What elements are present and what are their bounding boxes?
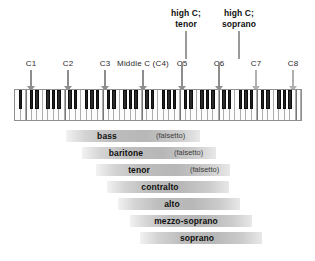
- octave-separator: [65, 90, 66, 120]
- black-key[interactable]: [283, 90, 286, 109]
- black-key[interactable]: [123, 90, 126, 109]
- black-key[interactable]: [162, 90, 165, 109]
- arrow-icon-middle-c-c4-: [139, 70, 148, 91]
- black-key[interactable]: [244, 90, 247, 109]
- black-key[interactable]: [266, 90, 269, 109]
- arrow-shaft: [255, 70, 257, 86]
- black-key[interactable]: [57, 90, 60, 109]
- arrow-icon-c1: [27, 70, 36, 91]
- callout-line-1: high C;: [171, 8, 201, 18]
- diagram-canvas: high C;tenorhigh C;soprano C1C2C3Middle …: [0, 0, 315, 261]
- black-key[interactable]: [222, 90, 225, 109]
- range-label-alto: alto: [122, 198, 222, 210]
- black-key[interactable]: [68, 90, 71, 109]
- black-key[interactable]: [30, 90, 33, 109]
- black-key[interactable]: [145, 90, 148, 109]
- black-key[interactable]: [277, 90, 280, 109]
- callout-label-high-c-soprano: high C;soprano: [199, 8, 279, 30]
- black-key[interactable]: [107, 90, 110, 109]
- range-label-tenor: tenor: [89, 164, 189, 176]
- octave-separator: [180, 90, 181, 120]
- callout-line-2: soprano: [199, 19, 279, 30]
- black-key[interactable]: [46, 90, 49, 109]
- range-label-mezzo-soprano: mezzo-soprano: [136, 215, 236, 227]
- black-key[interactable]: [189, 90, 192, 109]
- black-key[interactable]: [200, 90, 203, 109]
- arrow-shaft: [181, 62, 183, 86]
- callout-line-1: high C;: [224, 8, 254, 18]
- octave-label-c3: C3: [97, 59, 113, 68]
- arrow-icon-c2: [64, 70, 73, 91]
- octave-separator: [219, 90, 220, 120]
- black-key[interactable]: [74, 90, 77, 109]
- arrow-shaft: [142, 70, 144, 86]
- arrow-shaft: [104, 70, 106, 86]
- black-key[interactable]: [206, 90, 209, 109]
- arrow-icon-c6: [215, 62, 224, 91]
- black-key[interactable]: [239, 90, 242, 109]
- arrow-shaft: [292, 70, 294, 86]
- piano-keyboard[interactable]: [14, 89, 302, 121]
- arrow-icon-c3: [101, 70, 110, 91]
- octave-label-c8: C8: [285, 59, 301, 68]
- arrow-shaft: [67, 70, 69, 86]
- callout-stem-high-c-soprano: [238, 31, 240, 59]
- black-key[interactable]: [167, 90, 170, 109]
- black-key[interactable]: [134, 90, 137, 109]
- range-label-soprano: soprano: [147, 232, 247, 244]
- black-key[interactable]: [211, 90, 214, 109]
- arrow-icon-c7: [252, 70, 261, 91]
- range-note-bass: (falsetto): [156, 130, 185, 142]
- black-key[interactable]: [151, 90, 154, 109]
- black-key[interactable]: [129, 90, 132, 109]
- octave-label-c2: C2: [60, 59, 76, 68]
- range-note-baritone: (falsetto): [174, 147, 203, 159]
- arrow-shaft: [218, 62, 220, 86]
- black-key[interactable]: [112, 90, 115, 109]
- black-key[interactable]: [35, 90, 38, 109]
- black-key[interactable]: [261, 90, 264, 109]
- octave-separator: [142, 90, 143, 120]
- octave-label-middle-c-c4-: Middle C (C4): [112, 59, 174, 68]
- black-key[interactable]: [52, 90, 55, 109]
- black-key[interactable]: [173, 90, 176, 109]
- black-key[interactable]: [250, 90, 253, 109]
- octave-separator: [103, 90, 104, 120]
- range-note-tenor: (falsetto): [190, 164, 219, 176]
- octave-label-c7: C7: [248, 59, 264, 68]
- black-key[interactable]: [96, 90, 99, 109]
- callout-stem-high-c-tenor: [185, 31, 187, 59]
- range-label-contralto: contralto: [110, 181, 210, 193]
- black-key[interactable]: [228, 90, 231, 109]
- arrow-icon-c5: [178, 62, 187, 91]
- range-label-bass: bass: [57, 130, 157, 142]
- range-label-baritone: baritone: [76, 147, 176, 159]
- black-key[interactable]: [85, 90, 88, 109]
- black-key[interactable]: [184, 90, 187, 109]
- arrow-shaft: [30, 70, 32, 86]
- black-key[interactable]: [90, 90, 93, 109]
- octave-separator: [26, 90, 27, 120]
- black-key[interactable]: [19, 90, 22, 109]
- octave-separator: [296, 90, 297, 120]
- black-key[interactable]: [288, 90, 291, 109]
- octave-label-c1: C1: [23, 59, 39, 68]
- arrow-icon-c8: [289, 70, 298, 91]
- octave-separator: [257, 90, 258, 120]
